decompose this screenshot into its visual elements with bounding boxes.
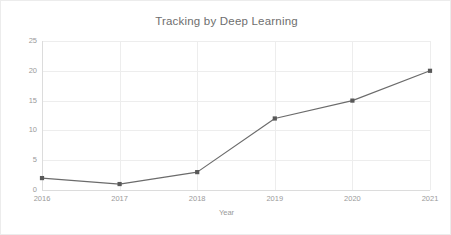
x-tick-label: 2021	[410, 194, 450, 203]
data-point-marker	[118, 182, 122, 186]
y-tick-label: 15	[19, 96, 37, 105]
x-tick-label: 2020	[332, 194, 372, 203]
y-axis-title: Count	[0, 85, 1, 105]
data-point-marker	[273, 116, 277, 120]
data-point-marker	[350, 99, 354, 103]
series-markers-count	[40, 69, 432, 186]
y-tick-label: 5	[19, 155, 37, 164]
x-tick-label: 2018	[177, 194, 217, 203]
y-tick-label: 20	[19, 66, 37, 75]
chart-figure: Tracking by Deep Learning Count Year 051…	[0, 0, 451, 235]
data-point-marker	[195, 170, 199, 174]
y-tick-label: 10	[19, 125, 37, 134]
x-axis-title: Year	[1, 208, 451, 217]
y-tick-label: 25	[19, 36, 37, 45]
x-tick-label: 2017	[100, 194, 140, 203]
x-tick-label: 2016	[22, 194, 62, 203]
line-series-layer	[1, 1, 451, 235]
x-tick-label: 2019	[255, 194, 295, 203]
data-point-marker	[40, 176, 44, 180]
series-line-count	[42, 71, 430, 184]
y-tick-label: 0	[19, 185, 37, 194]
data-point-marker	[428, 69, 432, 73]
